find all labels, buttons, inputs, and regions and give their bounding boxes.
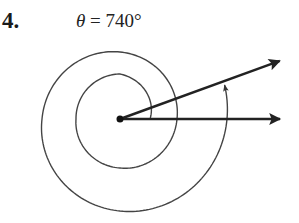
terminal-side-ray [120,61,280,119]
vertex-dot [117,116,124,123]
rotation-spiral-arc [42,52,228,212]
angle-diagram [0,0,299,223]
